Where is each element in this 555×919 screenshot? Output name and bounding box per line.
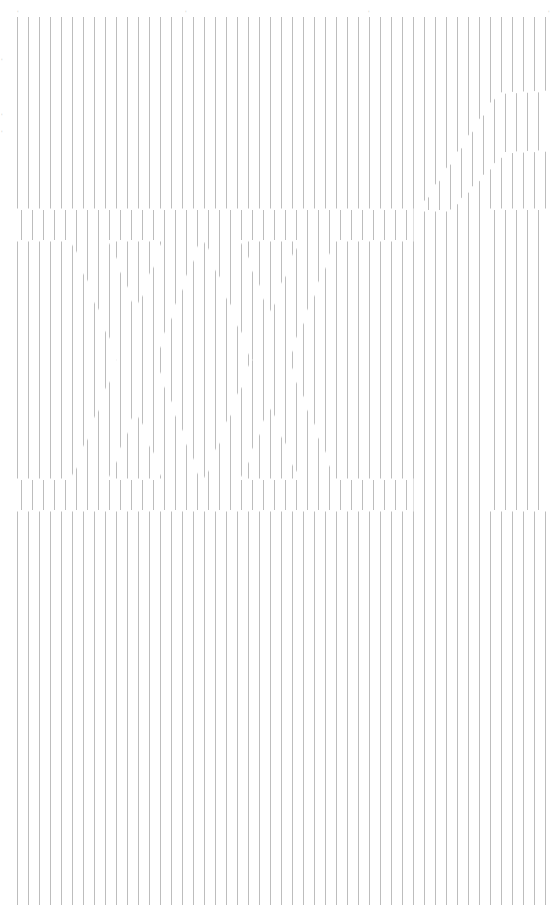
tick-mark: ' [1, 130, 3, 136]
line-pattern-canvas [0, 0, 555, 919]
tick-mark: ' [1, 58, 3, 64]
shifted-hidden-letter-lines [22, 17, 550, 905]
tick-mark: ' [17, 10, 19, 16]
tick-mark: ' [368, 10, 370, 16]
tick-mark: ' [548, 10, 550, 16]
base-vertical-lines [18, 17, 546, 905]
tick-mark: ' [1, 113, 3, 119]
tick-mark: ' [185, 10, 187, 16]
